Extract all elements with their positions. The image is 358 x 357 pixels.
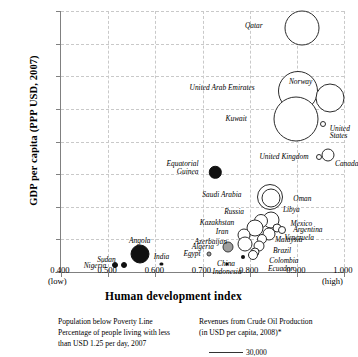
point-label-egypt: Egypt (183, 251, 200, 259)
x-tick-label: 0.600 (145, 265, 164, 275)
legend-size-scale: 30,000 (209, 348, 267, 357)
point-label-qatar: Qatar (245, 22, 263, 30)
legend-line: Revenues from Crude Oil Production (199, 317, 347, 328)
point-label-kuwait: Kuwait (226, 115, 247, 123)
gridline-vertical (344, 11, 345, 272)
x-tick-label: 0.400 (50, 265, 69, 275)
legend-fill-encoding: Population below Poverty LinePercentage … (58, 317, 208, 349)
point-label-kazakhstan: Kazakhstan (200, 219, 235, 227)
x-tick-label: 1.000 (333, 265, 352, 275)
point-label-russia: Russia (224, 209, 244, 217)
point-label-argentina: Argentina (293, 226, 322, 234)
point-label-united-arab-emirates: United Arab Emirates (190, 84, 255, 92)
x-axis-low-note: (low) (48, 276, 67, 286)
point-label-brazil: Brazil (273, 247, 291, 255)
x-tick-label: 0.800 (239, 265, 258, 275)
point-label-india: India (154, 253, 170, 261)
point-label-saudi-arabia: Saudi Arabia (202, 192, 241, 200)
chart-legend: Population below Poverty LinePercentage … (0, 317, 347, 352)
point-label-united-kingdom: United Kingdom (259, 153, 308, 161)
x-tick-label: 0.900 (286, 265, 305, 275)
point-label-iran: Iran (216, 229, 229, 237)
legend-line: Population below Poverty Line (58, 317, 208, 328)
point-label-equatorial-guinea: EquatorialGuinea (167, 161, 199, 176)
point-label-canada: Canada (335, 160, 358, 168)
legend-size-encoding: Revenues from Crude Oil Production(in US… (199, 317, 347, 339)
point-label-angola: Angola (129, 237, 150, 245)
y-axis-title: GDP per capita (PPP USD, 2007) (28, 6, 39, 256)
point-label-malaysia: Malaysia (275, 237, 303, 245)
legend-scale-value: 30,000 (246, 348, 267, 357)
x-axis-high-note: (high) (322, 276, 343, 286)
legend-line: than USD 1.25 per day, 2007 (58, 339, 208, 350)
legend-line: (in USD per capita, 2008)* (199, 328, 347, 339)
point-label-indonesia: Indonesia (212, 268, 241, 276)
legend-line: Percentage of people living with less (58, 328, 208, 339)
plot-area: QatarUnited Arab EmiratesNorwayKuwaitUni… (60, 11, 344, 273)
legend-scale-line (209, 352, 243, 353)
point-label-oman: Oman (293, 195, 311, 203)
x-axis-title: Human development index (0, 290, 347, 302)
x-tick-label: 0.700 (192, 265, 211, 275)
point-label-united-states: UnitedStates (330, 125, 350, 140)
point-label-libya: Libya (283, 206, 300, 214)
x-tick-label: 0.500 (97, 265, 116, 275)
point-labels: QatarUnited Arab EmiratesNorwayKuwaitUni… (61, 11, 344, 272)
point-label-norway: Norway (289, 78, 312, 86)
